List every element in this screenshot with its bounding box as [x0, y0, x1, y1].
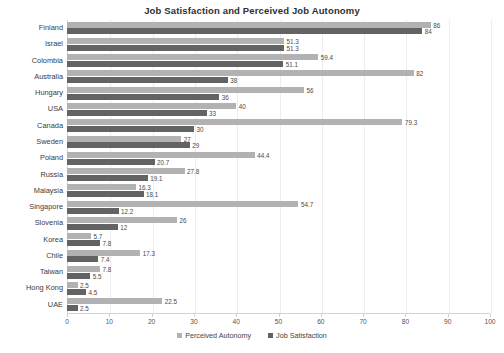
chart-row: Malaysia16.318.1 [67, 183, 490, 199]
bar-value-label: 33 [209, 109, 216, 116]
axis-tick-mark [363, 314, 364, 317]
bar-value-label: 7.4 [101, 256, 110, 263]
axis-tick-label: 40 [233, 318, 240, 325]
bar-autonomy: 40 [67, 103, 236, 109]
chart-row: Russia27.819.1 [67, 167, 490, 183]
bar-value-label: 18.1 [146, 191, 158, 198]
bar-satisfaction: 19.1 [67, 175, 148, 181]
bar-value-label: 56 [306, 86, 313, 93]
bar-autonomy: 7.8 [67, 266, 100, 272]
axis-tick-label: 20 [148, 318, 155, 325]
bar-autonomy: 27 [67, 136, 181, 142]
chart-title: Job Satisfaction and Perceived Job Auton… [0, 5, 504, 16]
bar-satisfaction: 12.2 [67, 208, 119, 214]
bar-autonomy: 51.3 [67, 38, 284, 44]
bar-autonomy: 59.4 [67, 54, 318, 60]
bar-value-label: 51.3 [286, 44, 298, 51]
bar-satisfaction: 7.8 [67, 240, 100, 246]
bar-satisfaction: 51.1 [67, 61, 283, 67]
category-label: Slovenia [35, 215, 63, 231]
bar-satisfaction: 7.4 [67, 256, 98, 262]
axis-tick-label: 60 [317, 318, 324, 325]
category-label: Singapore [29, 199, 63, 215]
bar-satisfaction: 33 [67, 110, 207, 116]
bar-value-label: 4.5 [89, 288, 98, 295]
chart-legend: Perceived AutonomyJob Satisfaction [0, 331, 504, 340]
category-label: Taiwan [40, 264, 63, 280]
bar-satisfaction: 20.7 [67, 159, 155, 165]
chart-row: Korea5.77.8 [67, 232, 490, 248]
x-axis: 0102030405060708090100 [67, 314, 490, 326]
bar-autonomy: 56 [67, 87, 304, 93]
bar-value-label: 7.8 [102, 265, 111, 272]
category-label: Colombia [32, 53, 63, 69]
bar-autonomy: 22.5 [67, 298, 162, 304]
bar-autonomy: 86 [67, 22, 431, 28]
bar-autonomy: 16.3 [67, 184, 136, 190]
axis-tick-label: 30 [190, 318, 197, 325]
category-label: Israel [45, 36, 63, 52]
axis-tick-mark [67, 314, 68, 317]
chart-row: Hong Kong2.54.5 [67, 280, 490, 296]
bar-value-label: 29 [192, 142, 199, 149]
axis-tick-mark [321, 314, 322, 317]
bar-value-label: 38 [230, 77, 237, 84]
bar-autonomy: 17.3 [67, 250, 140, 256]
bar-autonomy: 2.5 [67, 282, 78, 288]
axis-tick-mark [405, 314, 406, 317]
category-label: Canada [37, 118, 63, 134]
bar-autonomy: 82 [67, 70, 414, 76]
bar-value-label: 17.3 [143, 249, 155, 256]
axis-tick-mark [194, 314, 195, 317]
bar-autonomy: 79.3 [67, 119, 402, 125]
bar-value-label: 5.5 [93, 272, 102, 279]
bar-satisfaction: 84 [67, 28, 422, 34]
category-label: Poland [40, 150, 63, 166]
axis-tick-mark [109, 314, 110, 317]
legend-label: Job Satisfaction [276, 331, 327, 340]
chart-container: Job Satisfaction and Perceived Job Auton… [0, 0, 504, 353]
axis-tick-label: 100 [484, 318, 495, 325]
chart-row: Chile17.37.4 [67, 248, 490, 264]
bar-satisfaction: 18.1 [67, 191, 144, 197]
bar-value-label: 20.7 [157, 158, 169, 165]
bar-rows-layer: Finland8684Israel51.351.3Colombia59.451.… [67, 20, 490, 313]
legend-swatch-icon [177, 333, 182, 338]
chart-row: Israel51.351.3 [67, 36, 490, 52]
category-label: UAE [48, 297, 63, 313]
bar-value-label: 12 [120, 223, 127, 230]
legend-item[interactable]: Perceived Autonomy [177, 331, 251, 340]
axis-tick-label: 70 [359, 318, 366, 325]
bar-autonomy: 5.7 [67, 233, 91, 239]
category-label: USA [48, 101, 63, 117]
axis-tick-label: 0 [65, 318, 69, 325]
axis-tick-label: 50 [275, 318, 282, 325]
bar-value-label: 2.5 [80, 282, 89, 289]
chart-row: Finland8684 [67, 20, 490, 36]
bar-value-label: 26 [179, 216, 186, 223]
bar-satisfaction: 38 [67, 77, 228, 83]
chart-row: Poland44.420.7 [67, 150, 490, 166]
chart-row: Canada79.330 [67, 118, 490, 134]
bar-value-label: 51.1 [286, 61, 298, 68]
chart-row: Slovenia2612 [67, 215, 490, 231]
bar-value-label: 82 [416, 70, 423, 77]
bar-satisfaction: 2.5 [67, 305, 78, 311]
category-label: Hong Kong [26, 280, 63, 296]
bar-value-label: 22.5 [165, 298, 177, 305]
axis-tick-mark [448, 314, 449, 317]
legend-item[interactable]: Job Satisfaction [268, 331, 327, 340]
axis-tick-label: 10 [106, 318, 113, 325]
bar-value-label: 5.7 [94, 233, 103, 240]
bar-value-label: 44.4 [257, 151, 269, 158]
chart-row: Colombia59.451.1 [67, 53, 490, 69]
bar-value-label: 36 [222, 93, 229, 100]
category-label: Malaysia [34, 183, 63, 199]
bar-satisfaction: 51.3 [67, 45, 284, 51]
bar-satisfaction: 5.5 [67, 273, 90, 279]
chart-row: UAE22.52.5 [67, 297, 490, 313]
category-label: Finland [39, 20, 63, 36]
axis-tick-mark [152, 314, 153, 317]
axis-tick-mark [279, 314, 280, 317]
chart-row: Taiwan7.85.5 [67, 264, 490, 280]
